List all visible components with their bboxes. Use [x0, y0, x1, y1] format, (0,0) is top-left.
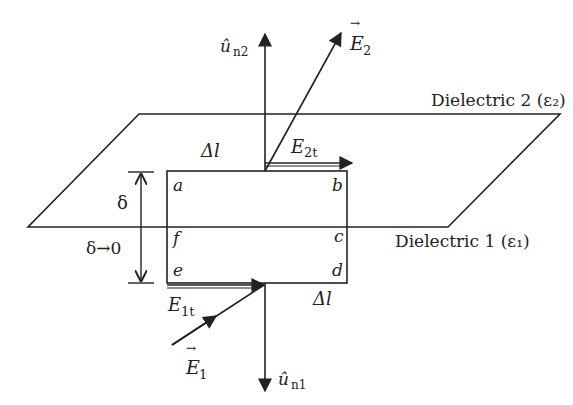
svg-text:2: 2 [363, 43, 371, 58]
delta-l-top-label: Δl [200, 140, 220, 161]
corner-a-label: a [173, 175, 183, 195]
svg-text:E: E [349, 32, 364, 54]
tangential-e2t-arrow [265, 163, 352, 166]
svg-text:2t: 2t [304, 145, 318, 160]
dielectric-boundary-diagram: Dielectric 2 (ε₂) Dielectric 1 (ε₁) û n2… [0, 0, 573, 405]
svg-text:→: → [186, 341, 196, 355]
corner-d-label: d [332, 260, 343, 280]
corner-c-label: c [334, 226, 344, 246]
svg-text:1t: 1t [181, 304, 195, 319]
svg-text:E: E [290, 136, 304, 157]
svg-text:n1: n1 [291, 378, 306, 392]
delta-label: δ [117, 192, 128, 213]
svg-text:1: 1 [199, 367, 207, 382]
delta-l-bottom-label: Δl [312, 288, 332, 309]
corner-e-label: e [173, 260, 183, 280]
dielectric-2-label: Dielectric 2 (ε₂) [431, 90, 566, 110]
dielectric-1-label: Dielectric 1 (ε₁) [395, 231, 530, 251]
e2t-label: E 2t [290, 136, 318, 160]
svg-text:û: û [220, 36, 231, 56]
e1-label: → E 1 [185, 341, 207, 382]
delta-limit-label: δ→0 [86, 238, 121, 258]
svg-text:n2: n2 [233, 45, 248, 59]
un1-label: û n1 [278, 369, 306, 392]
corner-b-label: b [332, 175, 343, 195]
e2-label: → E 2 [349, 16, 371, 58]
e1t-label: E 1t [167, 294, 195, 319]
svg-text:E: E [167, 294, 181, 315]
corner-f-label: f [171, 228, 182, 248]
svg-text:E: E [185, 356, 200, 378]
tangential-e1t-arrow [167, 285, 264, 288]
un2-label: û n2 [220, 36, 248, 59]
svg-text:→: → [350, 16, 360, 30]
svg-text:û: û [278, 369, 289, 389]
